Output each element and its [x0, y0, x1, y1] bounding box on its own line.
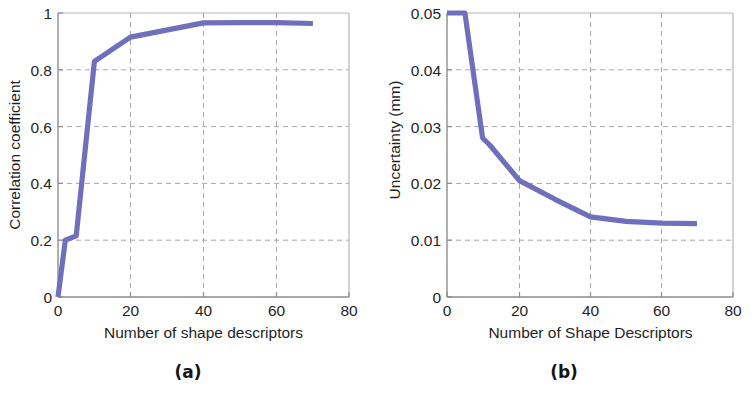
ytick-label-0.8: 0.8	[30, 62, 52, 79]
xtick-label-80: 80	[724, 302, 742, 319]
ytick-label-0: 0	[43, 289, 52, 306]
xtick-label-0: 0	[443, 302, 452, 319]
xtick-label-20: 20	[122, 302, 140, 319]
panel-a-ylabel: Correlation coefficient	[6, 80, 23, 230]
ytick-label-0.05: 0.05	[411, 5, 441, 22]
ytick-label-0.03: 0.03	[411, 119, 441, 136]
panel-a-xtick-labels: 0 20 40 60 80	[54, 302, 358, 319]
ytick-label-0.6: 0.6	[30, 119, 52, 136]
ytick-label-0.01: 0.01	[411, 232, 441, 249]
panel-b-ylabel: Uncertainty (mm)	[386, 81, 403, 200]
figure-container: 0 20 40 60 80 0 0.2 0.4 0.6 0.8 1 Number…	[0, 0, 752, 399]
xtick-label-80: 80	[340, 302, 358, 319]
xtick-label-40: 40	[195, 302, 213, 319]
xtick-label-60: 60	[268, 302, 286, 319]
panel-a: 0 20 40 60 80 0 0.2 0.4 0.6 0.8 1 Number…	[0, 0, 376, 399]
xtick-label-20: 20	[511, 302, 529, 319]
panel-b-ticks	[447, 13, 733, 297]
panel-a-ytick-labels: 0 0.2 0.4 0.6 0.8 1	[30, 5, 52, 306]
panel-b-caption: (b)	[376, 362, 752, 382]
panel-a-series-line	[58, 23, 313, 297]
xtick-label-60: 60	[653, 302, 671, 319]
panel-b-gridlines	[447, 13, 733, 297]
panel-b-series-line	[447, 13, 697, 224]
xtick-label-40: 40	[582, 302, 600, 319]
panel-a-caption: (a)	[0, 362, 376, 382]
panel-a-plot: 0 20 40 60 80 0 0.2 0.4 0.6 0.8 1 Number…	[0, 0, 376, 360]
panel-b-ytick-labels: 0 0.01 0.02 0.03 0.04 0.05	[411, 5, 442, 306]
ytick-label-1: 1	[43, 5, 52, 22]
ytick-label-0.04: 0.04	[411, 62, 442, 79]
ytick-label-0.4: 0.4	[30, 175, 52, 192]
ytick-label-0.2: 0.2	[30, 232, 52, 249]
panel-a-xlabel: Number of shape descriptors	[104, 324, 303, 341]
panel-b-xlabel: Number of Shape Descriptors	[488, 324, 692, 341]
panel-b: 0 20 40 60 80 0 0.01 0.02 0.03 0.04 0.05…	[376, 0, 752, 399]
panel-b-plot: 0 20 40 60 80 0 0.01 0.02 0.03 0.04 0.05…	[376, 0, 752, 360]
ytick-label-0.02: 0.02	[411, 175, 441, 192]
panel-b-xtick-labels: 0 20 40 60 80	[443, 302, 742, 319]
ytick-label-0: 0	[432, 289, 441, 306]
panel-b-axes	[447, 13, 733, 297]
xtick-label-0: 0	[54, 302, 63, 319]
